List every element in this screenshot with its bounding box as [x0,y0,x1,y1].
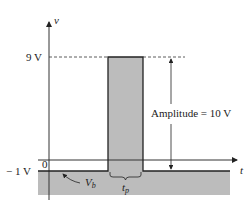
t-axis-label: t [240,164,244,176]
top-level-label: 9 V [26,51,42,63]
y-axis-label: v [54,14,59,26]
origin-label: 0 [42,158,48,170]
pulse-fill [108,57,143,171]
amplitude-label: Amplitude = 10 V [151,107,231,119]
baseline-fill [38,171,230,195]
base-level-label: − 1 V [6,165,31,177]
pulse-waveform-diagram: v t 9 V − 1 V 0 Amplitude = 10 V Vb tp [0,0,248,210]
